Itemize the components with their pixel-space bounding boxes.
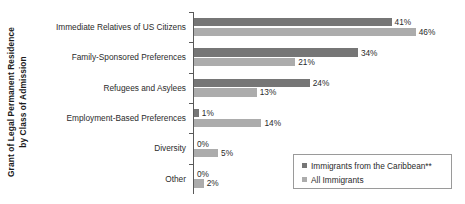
y-axis-title-line-2: by Class of Admission [17, 27, 29, 177]
bar [194, 88, 257, 96]
axis-tick [189, 164, 193, 165]
bar [194, 149, 218, 157]
chart-row: Refugees and Asylees24%13% [34, 73, 465, 103]
bar-value-label: 34% [358, 48, 378, 58]
bar [194, 28, 416, 36]
bar [194, 48, 358, 56]
legend-swatch-icon [302, 163, 307, 168]
bar [194, 179, 204, 187]
bar-group: 24%13% [194, 73, 465, 103]
bar-group: 41%46% [194, 12, 465, 42]
chart-legend: Immigrants from the Caribbean** All Immi… [293, 154, 452, 189]
chart-row: Employment-Based Preferences1%14% [34, 103, 465, 133]
bar-group: 34%21% [194, 42, 465, 72]
category-label: Family-Sponsored Preferences [72, 52, 189, 62]
chart-row: Immediate Relatives of US Citizens41%46% [34, 12, 465, 42]
bar-value-label: 2% [204, 178, 219, 188]
legend-item: All Immigrants [302, 173, 451, 186]
y-axis-title: Grant of Legal Permanent Residence by Cl… [6, 27, 29, 177]
bar-value-label: 21% [295, 57, 315, 67]
category-label: Refugees and Asylees [103, 83, 189, 93]
legend-label: Immigrants from the Caribbean** [311, 161, 432, 171]
category-label: Employment-Based Preferences [67, 113, 189, 123]
bar-value-label: 5% [218, 148, 233, 158]
bar-value-label: 0% [194, 169, 209, 179]
bar [194, 18, 392, 26]
axis-tick [189, 103, 193, 104]
bar-chart: Grant of Legal Permanent Residence by Cl… [0, 0, 465, 204]
plot-area: Immediate Relatives of US Citizens41%46%… [34, 8, 465, 196]
bar-value-label: 46% [416, 27, 436, 37]
bar [194, 58, 295, 66]
chart-row: Family-Sponsored Preferences34%21% [34, 42, 465, 72]
bar-value-label: 14% [261, 118, 281, 128]
bar-value-label: 41% [392, 17, 412, 27]
y-axis-title-line-1: Grant of Legal Permanent Residence [6, 27, 18, 177]
category-label: Diversity [154, 143, 189, 153]
axis-tick [189, 133, 193, 134]
bar-value-label: 0% [194, 139, 209, 149]
category-label: Other [165, 174, 189, 184]
bar-value-label: 13% [257, 87, 277, 97]
legend-swatch-icon [302, 177, 307, 182]
legend-item: Immigrants from the Caribbean** [302, 159, 451, 172]
axis-tick [189, 73, 193, 74]
y-axis-title-container: Grant of Legal Permanent Residence by Cl… [0, 0, 34, 204]
bar [194, 119, 261, 127]
axis-tick [189, 42, 193, 43]
bar [194, 79, 310, 87]
bar-group: 1%14% [194, 103, 465, 133]
category-label: Immediate Relatives of US Citizens [56, 22, 189, 32]
bar-value-label: 1% [199, 108, 214, 118]
bar-value-label: 24% [310, 78, 330, 88]
legend-label: All Immigrants [311, 175, 364, 185]
axis-tick [189, 12, 193, 13]
